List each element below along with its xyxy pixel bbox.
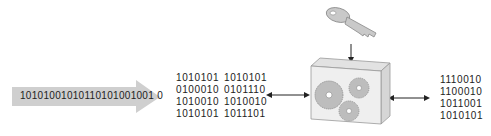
gear-box-icon bbox=[311, 58, 390, 124]
bit-row: 1010101 bbox=[224, 72, 267, 84]
bit-row: 1100010 bbox=[440, 86, 483, 98]
bit-row: 1010101 bbox=[176, 72, 219, 84]
plaintext-column-2: 1010101 0101110 1010010 1011101 bbox=[224, 72, 267, 120]
ciphertext-column: 1110010 1100010 1011001 1010101 bbox=[440, 74, 483, 122]
bit-row: 1010010 bbox=[176, 96, 219, 108]
bit-row: 1011001 bbox=[440, 98, 483, 110]
bit-row: 0100010 bbox=[176, 84, 219, 96]
bit-row: 1110010 bbox=[440, 74, 483, 86]
double-arrow-right bbox=[388, 95, 430, 101]
bit-row: 1011101 bbox=[224, 108, 267, 120]
key-icon bbox=[325, 5, 376, 37]
bit-row: 0101110 bbox=[224, 84, 267, 96]
bit-row: 1010101 bbox=[440, 110, 483, 122]
bit-row: 1010101 bbox=[176, 108, 219, 120]
double-arrow-left bbox=[266, 92, 310, 98]
plaintext-column-1: 1010101 0100010 1010010 1010101 bbox=[176, 72, 219, 120]
input-bit-stream: 10101001010110101001001 0 bbox=[20, 90, 163, 102]
bit-row: 1010010 bbox=[224, 96, 267, 108]
